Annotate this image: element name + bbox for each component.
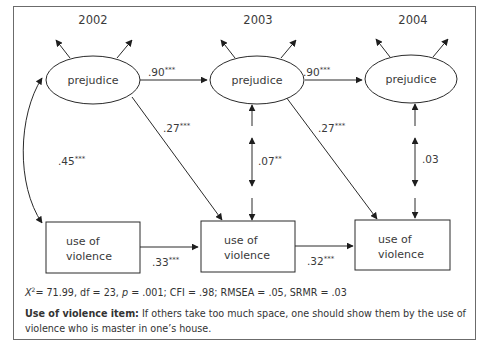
coef-viol-2002-2003: .33***	[152, 256, 180, 268]
coef-viol-2003-2004: .32***	[307, 255, 335, 267]
coef-prej-2002-2003: .90***	[148, 66, 176, 78]
observed-node-violence-2003: use of violence	[201, 221, 295, 272]
svg-text:use of: use of	[224, 234, 259, 247]
indicator-arrows	[56, 39, 448, 58]
item-wording-note: Use of violence item: If others take too…	[25, 306, 475, 336]
coef-rescov-2003: .07**	[258, 155, 282, 167]
year-label-2002: 2002	[78, 13, 107, 27]
item-note-label: Use of violence item:	[25, 308, 139, 319]
svg-text:violence: violence	[378, 248, 424, 261]
path-prej2002-viol2003	[132, 97, 222, 220]
svg-text:violence: violence	[66, 250, 112, 263]
year-label-2003: 2003	[243, 13, 272, 27]
svg-text:prejudice: prejudice	[68, 74, 119, 87]
covariance-curve-2002	[23, 78, 42, 223]
observed-node-violence-2002: use of violence	[46, 222, 140, 273]
svg-text:prejudice: prejudice	[386, 73, 437, 86]
svg-text:use of: use of	[378, 233, 413, 246]
coef-prej-2003-2004: .90***	[303, 66, 331, 78]
svg-text:prejudice: prejudice	[232, 74, 283, 87]
observed-node-violence-2004: use of violence	[355, 220, 450, 270]
latent-node-prejudice-2003: prejudice	[210, 56, 304, 104]
latent-node-prejudice-2004: prejudice	[365, 55, 457, 103]
coef-cov-2002: .45***	[58, 155, 86, 167]
coef-rescov-2004: .03	[422, 153, 439, 165]
latent-node-prejudice-2002: prejudice	[46, 56, 140, 104]
path-prej2003-viol2004	[286, 97, 377, 219]
svg-text:use of: use of	[66, 235, 101, 248]
svg-text:violence: violence	[224, 249, 270, 262]
year-label-2004: 2004	[398, 13, 427, 27]
coef-cross-2002: .27***	[163, 122, 191, 134]
model-fit-statistics: X2= 71.99, df = 23, p = .001; CFI = .98;…	[25, 286, 347, 298]
coef-cross-2003: .27***	[318, 122, 346, 134]
